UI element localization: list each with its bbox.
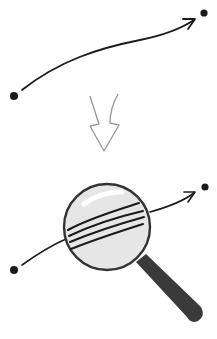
end-point-icon bbox=[201, 183, 208, 190]
magnifier-handle-icon bbox=[136, 254, 203, 322]
down-arrow-icon bbox=[90, 94, 119, 151]
bottom-path-group bbox=[10, 183, 209, 322]
diagram-canvas bbox=[0, 0, 217, 339]
curve-path-left bbox=[22, 239, 66, 265]
curve-path bbox=[22, 20, 194, 90]
start-point-icon bbox=[10, 92, 18, 100]
magnifier-lens-icon bbox=[64, 184, 150, 270]
top-path-group bbox=[10, 9, 208, 100]
start-point-icon bbox=[10, 266, 18, 274]
end-point-icon bbox=[200, 9, 207, 16]
